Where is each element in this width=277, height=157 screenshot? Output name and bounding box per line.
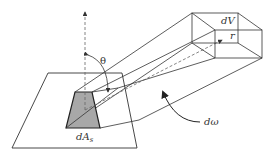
diagram-svg <box>0 0 277 157</box>
surface-element-dAs <box>66 92 100 128</box>
dAs-subscript: s <box>90 136 94 144</box>
theta-label: θ <box>100 56 106 66</box>
dAs-label: dAs <box>76 132 93 144</box>
diagram-canvas: θ dV r dAs dω <box>0 0 277 157</box>
dAs-main: dA <box>76 131 90 142</box>
domega-label: dω <box>204 117 219 127</box>
solid-angle-arrow-domega <box>163 92 200 122</box>
r-label: r <box>230 31 235 41</box>
dV-label: dV <box>221 16 235 26</box>
